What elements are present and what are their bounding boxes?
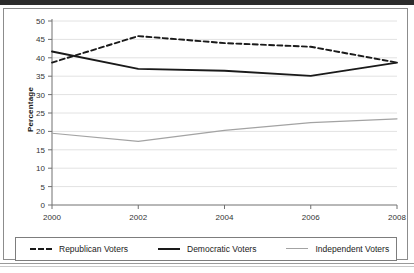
y-tick-label: 20: [36, 127, 45, 136]
y-tick-label: 35: [36, 72, 45, 81]
series-line-1: [52, 52, 397, 76]
chart-frame: Percentage 05101520253035404550200020022…: [3, 8, 408, 260]
x-tick-label: 2002: [129, 213, 147, 222]
y-tick-label: 25: [36, 109, 45, 118]
chart-figure: Percentage 05101520253035404550200020022…: [0, 0, 414, 273]
y-tick-label: 45: [36, 35, 45, 44]
legend-label-republican: Republican Voters: [59, 244, 128, 254]
series-line-2: [52, 119, 397, 141]
x-tick-label: 2008: [388, 213, 406, 222]
y-tick-label: 15: [36, 146, 45, 155]
legend-swatch-solid-icon: [158, 245, 180, 253]
legend-item-republican[interactable]: Republican Voters: [30, 244, 128, 254]
y-tick-label: 40: [36, 54, 45, 63]
plot-area: 0510152025303540455020002002200420062008: [4, 9, 409, 261]
legend-label-independent: Independent Voters: [315, 244, 389, 254]
chart-legend: Republican Voters Democratic Voters Inde…: [15, 237, 397, 261]
page-rule-top: [0, 263, 414, 264]
y-tick-label: 0: [41, 201, 46, 210]
legend-item-democratic[interactable]: Democratic Voters: [158, 244, 256, 254]
y-tick-label: 50: [36, 17, 45, 26]
legend-item-independent[interactable]: Independent Voters: [286, 244, 389, 254]
y-tick-label: 5: [41, 183, 46, 192]
page-rule-bottom: [0, 266, 414, 267]
x-tick-label: 2006: [302, 213, 320, 222]
legend-swatch-gray-icon: [286, 245, 308, 253]
line-chart-svg: 0510152025303540455020002002200420062008: [4, 9, 409, 261]
y-tick-label: 10: [36, 164, 45, 173]
x-tick-label: 2004: [216, 213, 234, 222]
legend-swatch-dashed-icon: [30, 245, 52, 253]
legend-label-democratic: Democratic Voters: [187, 244, 256, 254]
series-line-0: [52, 36, 397, 62]
x-tick-label: 2000: [43, 213, 61, 222]
scan-top-band: [0, 0, 414, 5]
y-tick-label: 30: [36, 91, 45, 100]
